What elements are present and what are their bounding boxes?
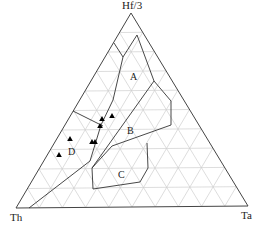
field-label-b: B bbox=[127, 126, 134, 136]
field-label-a: A bbox=[130, 72, 137, 82]
ternary-plot bbox=[0, 0, 258, 227]
grid-line bbox=[225, 187, 237, 207]
field-label-c: C bbox=[118, 170, 125, 180]
grid-line bbox=[28, 187, 237, 189]
sample-triangle-marker bbox=[67, 136, 73, 141]
grid-line bbox=[74, 111, 133, 208]
field-label-d: D bbox=[68, 147, 75, 157]
field-boundary bbox=[92, 35, 171, 168]
vertex-label-right: Ta bbox=[241, 210, 252, 221]
grid-line bbox=[86, 71, 167, 208]
sample-triangle-marker bbox=[56, 152, 62, 157]
grid-line bbox=[178, 148, 213, 207]
sample-triangle-marker bbox=[109, 113, 115, 118]
grid-line bbox=[120, 33, 225, 207]
vertex-label-left: Th bbox=[10, 212, 22, 223]
ternary-diagram: Hf/3 Th Ta ABCD bbox=[0, 0, 258, 227]
vertex-label-top: Hf/3 bbox=[122, 0, 142, 11]
field-boundary bbox=[29, 43, 123, 208]
grid-line bbox=[74, 110, 190, 111]
grid-line bbox=[132, 110, 190, 208]
